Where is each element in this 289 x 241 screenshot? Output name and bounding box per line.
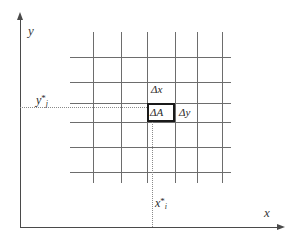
x-axis-label: x (264, 206, 270, 219)
grid-line-vertical (222, 32, 223, 183)
grid-line-horizontal (70, 172, 231, 173)
delta-a-label: ΔA (150, 107, 163, 118)
x-star-subscript: i (165, 202, 167, 211)
grid-line-horizontal (70, 122, 231, 123)
grid-line-horizontal (70, 57, 231, 58)
x-axis-line (20, 227, 280, 228)
delta-y-label: Δy (179, 107, 190, 118)
y-star-label: y*j (36, 94, 48, 108)
grid-line-horizontal (70, 147, 231, 148)
y-star-subscript: j (46, 99, 48, 108)
y-axis-label: y (28, 24, 34, 37)
x-star-label: x*i (155, 197, 167, 211)
y-axis-line (20, 18, 21, 228)
grid-line-vertical (197, 32, 198, 183)
x-star-guide-line (152, 120, 153, 227)
grid-line-vertical (175, 32, 176, 183)
delta-x-label: Δx (151, 84, 162, 95)
riemann-grid-figure: y x ΔA Δx Δy y*j x*i (0, 0, 289, 241)
x-axis-arrow-icon (277, 224, 285, 230)
y-axis-arrow-icon (17, 12, 23, 20)
